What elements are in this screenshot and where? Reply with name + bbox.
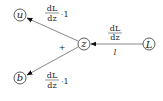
- svg-text:dz: dz: [47, 14, 56, 23]
- node-L: L: [143, 38, 155, 50]
- svg-text:dz: dz: [110, 33, 119, 42]
- svg-text:b: b: [17, 72, 23, 83]
- svg-text:l: l: [114, 48, 117, 57]
- svg-text:L: L: [145, 39, 153, 50]
- svg-text:dz: dz: [47, 81, 56, 90]
- label-L-to-z: dL dz l: [108, 24, 122, 57]
- svg-text:·1: ·1: [61, 10, 69, 19]
- label-z-to-b: dL dz ·1: [45, 71, 69, 90]
- svg-text:·1: ·1: [61, 77, 69, 86]
- svg-text:dL: dL: [47, 71, 58, 80]
- svg-text:dL: dL: [110, 24, 121, 33]
- plus-operator: +: [59, 43, 66, 52]
- label-z-to-u: dL dz ·1: [45, 4, 69, 23]
- computation-graph: u z L b + dL dz l dL dz ·1 dL dz ·1: [0, 0, 163, 101]
- node-z: z: [78, 38, 90, 50]
- svg-text:z: z: [80, 38, 87, 49]
- node-b: b: [14, 72, 26, 84]
- svg-text:u: u: [17, 9, 23, 20]
- svg-text:dL: dL: [47, 4, 58, 13]
- node-u: u: [14, 9, 26, 21]
